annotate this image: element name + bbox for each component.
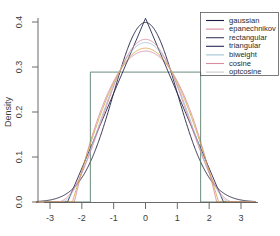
y-tick-group: 0.00.10.20.30.4 bbox=[14, 16, 38, 209]
legend: gaussianepanechnikovrectangulartriangula… bbox=[201, 13, 279, 77]
chart-canvas: 0.00.10.20.30.4 -3-2-10123 Density gauss… bbox=[0, 0, 280, 236]
y-axis-title: Density bbox=[3, 96, 13, 127]
x-tick-label: 2 bbox=[207, 213, 212, 223]
x-tick-label: -1 bbox=[110, 213, 118, 223]
density-curve-biweight bbox=[36, 43, 256, 202]
legend-label-optcosine: optcosine bbox=[229, 67, 262, 76]
x-tick-label: -2 bbox=[78, 213, 86, 223]
y-tick-label: 0.4 bbox=[14, 16, 24, 29]
x-tick-label: 1 bbox=[175, 213, 180, 223]
y-tick-label: 0.3 bbox=[14, 61, 24, 74]
y-tick-label: 0.0 bbox=[14, 196, 24, 209]
y-tick-label: 0.1 bbox=[14, 151, 24, 164]
x-tick-group: -3-2-10123 bbox=[46, 203, 244, 223]
x-tick-label: -3 bbox=[46, 213, 54, 223]
density-curve-gaussian bbox=[36, 22, 256, 201]
y-tick-label: 0.2 bbox=[14, 106, 24, 119]
x-tick-label: 3 bbox=[238, 213, 243, 223]
density-curve-rectangular bbox=[36, 72, 256, 202]
density-curve-optcosine bbox=[36, 48, 256, 202]
density-plot: 0.00.10.20.30.4 -3-2-10123 Density gauss… bbox=[0, 0, 280, 236]
x-tick-label: 0 bbox=[143, 213, 148, 223]
legend-items: gaussianepanechnikovrectangulartriangula… bbox=[206, 16, 276, 77]
density-curve-epanechnikov bbox=[36, 51, 256, 202]
